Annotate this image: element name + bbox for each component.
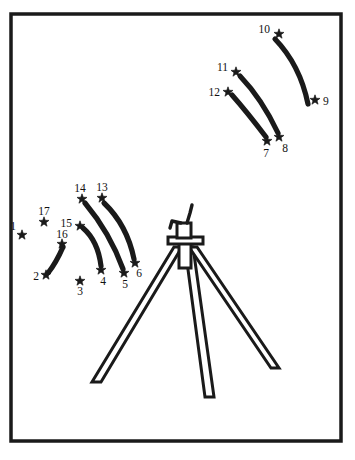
dot-number-label: 16 [56, 228, 68, 240]
dot-number-label: 10 [259, 23, 271, 35]
drawing-canvas: 1234567891011121314151617 [0, 0, 355, 460]
dot-number-label: 3 [77, 285, 83, 297]
dot-number-label: 11 [217, 61, 228, 73]
dot-number-label: 9 [323, 95, 329, 107]
dot-number-label: 2 [33, 270, 39, 282]
dot-number-label: 7 [263, 147, 269, 159]
dot-number-label: 5 [122, 278, 128, 290]
connect-the-dots-artwork: 1234567891011121314151617 [0, 0, 355, 460]
dot-number-label: 1 [10, 220, 16, 232]
tripod-column-upper [177, 223, 191, 238]
dot-number-label: 13 [96, 181, 108, 193]
dot-number-label: 12 [209, 86, 221, 98]
dot-number-label: 14 [74, 182, 86, 194]
dot-number-label: 17 [38, 205, 50, 217]
dot-number-label: 6 [136, 267, 142, 279]
dot-number-label: 8 [282, 142, 288, 154]
dot-number-label: 4 [100, 275, 106, 287]
